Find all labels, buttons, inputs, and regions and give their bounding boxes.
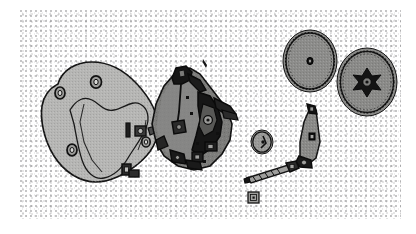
part-disc-lower <box>337 48 397 116</box>
part-disc-upper <box>283 30 337 92</box>
part-mechanism-body <box>152 66 238 170</box>
tick-mark <box>203 59 208 68</box>
lever-upper-knuckle <box>307 104 317 114</box>
part-lever-arm <box>296 104 320 168</box>
part-threaded-rod <box>244 161 299 183</box>
illustration-canvas: exploded-assembly-illustration dithered … <box>0 0 416 234</box>
exploded-assembly-drawing <box>0 0 416 234</box>
part-washer-disc <box>251 130 273 154</box>
part-cover-plate <box>42 62 159 182</box>
rod-tip <box>244 177 250 183</box>
part-square-nut <box>248 192 259 203</box>
lever-pivot-hole <box>309 133 315 140</box>
